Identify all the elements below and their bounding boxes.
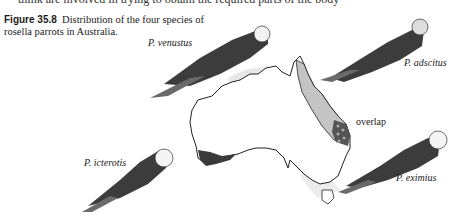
tasmania [322,190,334,204]
parrot-adscitus-illustration [320,19,428,82]
label-eximius: P. eximius [396,172,436,183]
distribution-figure [0,0,454,216]
label-adscitus: P. adscitus [404,57,447,68]
label-overlap: overlap [356,116,386,127]
parrot-eximius-illustration [338,131,447,194]
label-icterotis: P. icterotis [84,157,126,168]
label-venustus: P. venustus [148,37,192,48]
